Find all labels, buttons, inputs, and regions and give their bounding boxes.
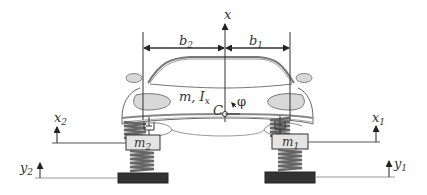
- coordinate-references: [35, 126, 395, 178]
- b1-label: b1: [249, 34, 263, 50]
- m1-label: m1: [282, 136, 299, 151]
- m2-label: m2: [134, 137, 151, 152]
- b2-label: b2: [179, 34, 193, 50]
- mass-inertia-label: m, Ix: [179, 90, 210, 106]
- diagram-canvas: [0, 0, 427, 195]
- left-headlight: [134, 94, 171, 110]
- left-tire-spring: [130, 151, 154, 171]
- right-headlight: [268, 94, 305, 110]
- x2-label: x2: [54, 111, 67, 127]
- right-mirror: [296, 74, 312, 83]
- y1-label: y1: [394, 157, 407, 173]
- phi-label: φ: [237, 95, 246, 108]
- x1-label: x1: [372, 111, 385, 127]
- left-ground-base: [118, 173, 168, 183]
- left-mirror: [126, 74, 142, 83]
- y2-label: y2: [20, 161, 33, 177]
- right-ground-base: [265, 172, 315, 183]
- half-car-suspension-diagram: x b2 b1 m, Ix C φ m2 m1 x2 x1 y2 y1: [0, 0, 427, 195]
- center-label: C: [213, 104, 223, 117]
- right-tire-spring: [278, 150, 302, 170]
- x-axis-label: x: [224, 8, 231, 21]
